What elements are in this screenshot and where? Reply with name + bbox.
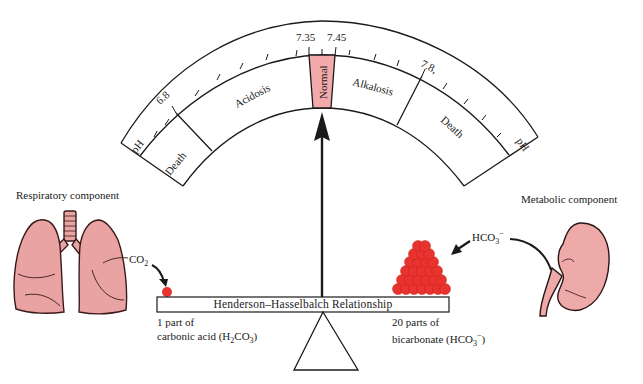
lungs-icon xyxy=(14,211,128,314)
zone-label-death-alkali: Death xyxy=(439,114,467,141)
zone-label-normal: Normal xyxy=(317,65,329,99)
tick-label-7.8: 7.8, xyxy=(419,57,439,75)
co2-label: CO2 xyxy=(129,253,148,268)
respiratory-component-title: Respiratory component xyxy=(16,189,119,201)
bicarbonate-caption-line1: 20 parts of xyxy=(392,315,485,329)
tick-label-7.45: 7.45 xyxy=(327,31,347,43)
hco3-superscript: − xyxy=(499,229,504,238)
hco3-arrow-icon xyxy=(458,241,470,249)
beam-label: Henderson–Hasselbalch Relationship xyxy=(157,297,449,312)
divider-7.8 xyxy=(397,76,422,125)
zone-label-death-acid: Death xyxy=(162,149,188,177)
divider-6.8 xyxy=(176,113,212,151)
tick-label-6.8: 6.8 xyxy=(153,88,172,106)
hco3-text: HCO xyxy=(472,231,495,243)
acid-base-balance-diagram: pH pH 6.8 7.35 7.45 7.8, Death Acidosis … xyxy=(0,0,643,384)
fulcrum-triangle xyxy=(294,312,358,370)
hco3-arrowhead-icon xyxy=(451,244,462,255)
gauge-pointer xyxy=(314,112,330,297)
carbonic-acid-ball xyxy=(162,287,172,297)
zone-label-alkalosis: Alkalosis xyxy=(351,75,394,97)
bicarbonate-caption: 20 parts of bicarbonate (HCO3−) xyxy=(392,315,485,351)
co2-text: CO xyxy=(129,253,144,265)
hco3-subscript: 3 xyxy=(495,237,499,246)
carbonic-caption-line1: 1 part of xyxy=(157,315,257,329)
carbonic-acid-caption: 1 part of carbonic acid (H2CO3) xyxy=(157,315,257,348)
bicarbonate-ball-pile xyxy=(393,241,451,295)
co2-subscript: 2 xyxy=(144,259,148,268)
metabolic-component-title: Metabolic component xyxy=(521,193,617,205)
bicarbonate-caption-line2: bicarbonate (HCO3−) xyxy=(392,329,485,351)
co2-arrowhead-icon xyxy=(159,279,168,287)
carbonic-caption-line2: carbonic acid (H2CO3) xyxy=(157,329,257,348)
zone-label-acidosis: Acidosis xyxy=(232,81,272,110)
tick-label-7.35: 7.35 xyxy=(296,31,316,43)
hco3-curve xyxy=(510,239,551,270)
hco3-label: HCO3− xyxy=(472,229,504,246)
pointer-arrowhead-icon xyxy=(314,112,330,141)
